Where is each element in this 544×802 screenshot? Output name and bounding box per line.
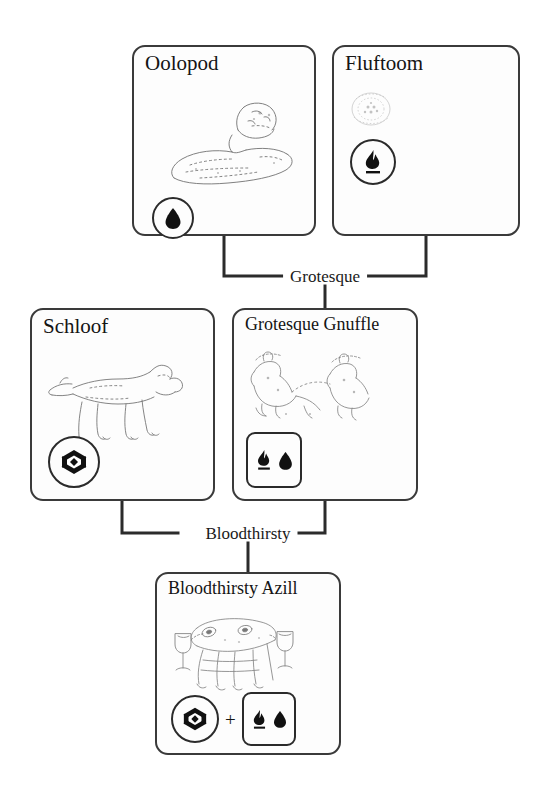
- card-bloodthirsty-azill[interactable]: Bloodthirsty Azill: [155, 572, 341, 755]
- badge-separator-plus: +: [225, 710, 236, 729]
- badge-azill-flame-water[interactable]: [242, 692, 296, 746]
- card-title-bloodthirsty-azill: Bloodthirsty Azill: [168, 578, 298, 599]
- card-schloof[interactable]: Schloof: [30, 308, 215, 501]
- card-title-grotesque-gnuffle: Grotesque Gnuffle: [245, 314, 379, 335]
- edge-schloof-stub: [122, 501, 178, 533]
- icon-pair: [254, 448, 294, 472]
- connector-label-bloodthirsty: Bloodthirsty: [198, 525, 297, 542]
- water-droplet-icon: [272, 709, 288, 729]
- creature-art-fluftoom: [344, 87, 398, 133]
- badge-fluftoom-flame[interactable]: [350, 139, 396, 185]
- creature-art-bloodthirsty-azill: [169, 610, 309, 692]
- creature-art-oolopod: [156, 95, 306, 187]
- badge-gnuffle-flame-water[interactable]: [246, 432, 302, 488]
- card-title-oolopod: Oolopod: [145, 51, 219, 75]
- creature-art-grotesque-gnuffle: [242, 348, 382, 430]
- badge-azill-gem[interactable]: [171, 695, 219, 743]
- flame-underlined-icon: [254, 448, 274, 472]
- gem-crystal-icon: [59, 448, 89, 476]
- flame-underlined-icon: [361, 148, 385, 176]
- card-oolopod[interactable]: Oolopod: [132, 45, 316, 236]
- icon-pair: [250, 708, 288, 731]
- badge-oolopod-water[interactable]: [152, 197, 194, 239]
- card-title-fluftoom: Fluftoom: [345, 51, 423, 75]
- gem-crystal-icon: [181, 706, 209, 732]
- lineage-diagram: Grotesque Bloodthirsty Oolopod: [0, 0, 544, 802]
- card-title-schloof: Schloof: [43, 314, 108, 338]
- flame-underlined-icon: [250, 708, 269, 731]
- card-fluftoom[interactable]: Fluftoom: [332, 45, 520, 236]
- card-grotesque-gnuffle[interactable]: Grotesque Gnuffle: [232, 308, 418, 501]
- water-droplet-icon: [277, 450, 294, 471]
- badge-schloof-gem[interactable]: [48, 436, 100, 488]
- edge-fluftoom-stub: [360, 236, 426, 276]
- edge-oolopod-stub: [224, 236, 290, 276]
- badge-row-bloodthirsty-azill: +: [171, 692, 296, 746]
- water-droplet-icon: [163, 206, 183, 230]
- connector-label-grotesque: Grotesque: [283, 268, 367, 285]
